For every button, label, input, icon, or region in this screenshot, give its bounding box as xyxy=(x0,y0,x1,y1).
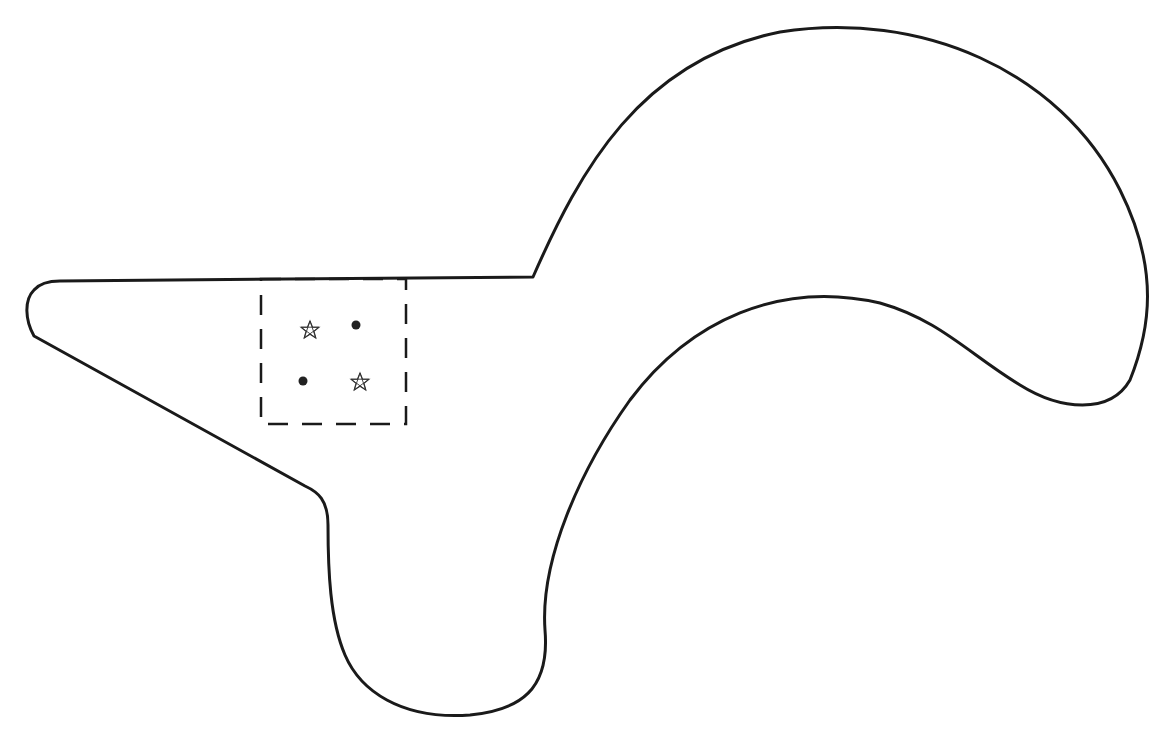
star-icon xyxy=(301,321,319,338)
dot-icon xyxy=(299,377,308,386)
dot-icon xyxy=(352,321,361,330)
dashed-region-box xyxy=(261,279,406,424)
star-icon xyxy=(351,373,369,390)
diagram-canvas xyxy=(0,0,1168,739)
outline-shape xyxy=(27,28,1148,716)
